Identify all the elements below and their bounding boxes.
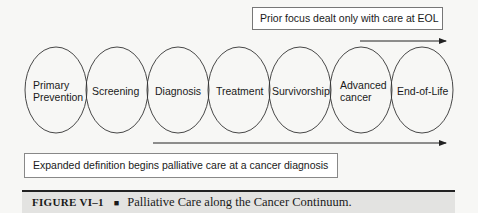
figure-label: FIGURE VI–1: [32, 196, 104, 208]
figure-title: Palliative Care along the Cancer Continu…: [127, 195, 351, 209]
continuum-diagram: [0, 0, 478, 213]
square-bullet-icon: ■: [114, 198, 119, 208]
stage-survivorship: Survivorship: [272, 85, 330, 97]
stage-treatment: Treatment: [216, 85, 263, 97]
stage-screening: Screening: [92, 85, 139, 97]
stage-primary-prevention: Primary Prevention: [33, 79, 83, 103]
stage-diagnosis: Diagnosis: [155, 85, 201, 97]
figure-caption: FIGURE VI–1■Palliative Care along the Ca…: [22, 190, 455, 213]
stage-end-of-life: End-of-Life: [397, 85, 448, 97]
stage-advanced-cancer: Advanced cancer: [340, 79, 387, 103]
expanded-definition-note: Expanded definition begins palliative ca…: [24, 153, 338, 178]
